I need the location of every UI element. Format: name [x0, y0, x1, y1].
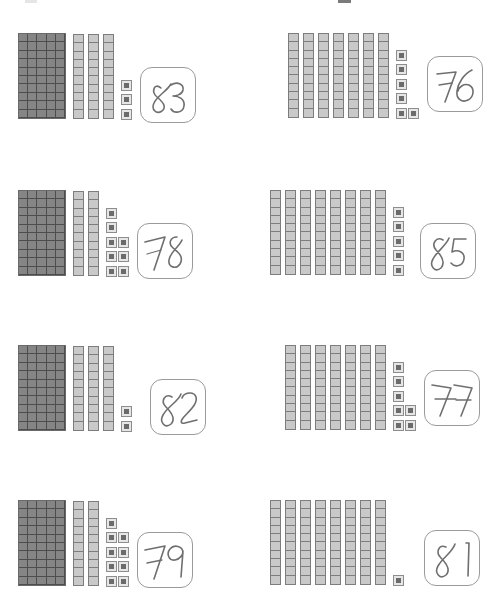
- rod-cell: [74, 93, 83, 101]
- rod-cell: [361, 257, 370, 265]
- flat-cell: [37, 509, 46, 517]
- flat-cell: [56, 76, 65, 84]
- flat-cell: [19, 380, 28, 388]
- rod-cell: [74, 267, 83, 275]
- rod-cell: [376, 518, 385, 526]
- rod-cell: [334, 92, 343, 100]
- ten-rod: [88, 34, 99, 119]
- answer-box[interactable]: 78: [137, 223, 193, 279]
- answer-box[interactable]: 79: [137, 532, 193, 588]
- flat-cell: [19, 346, 28, 354]
- rod-cell: [361, 576, 370, 584]
- rod-cell: [376, 199, 385, 207]
- rod-cell: [271, 216, 280, 224]
- ten-rods-group: [73, 34, 118, 119]
- flat-cell: [56, 250, 65, 258]
- flat-cell: [28, 258, 37, 266]
- flat-cell: [47, 422, 56, 430]
- rod-cell: [74, 347, 83, 355]
- rod-cell: [346, 346, 355, 354]
- unit-cubes-group: [122, 402, 134, 431]
- rod-cell: [316, 216, 325, 224]
- ten-rods-group: [285, 345, 390, 430]
- rod-cell: [89, 568, 98, 576]
- rod-cell: [346, 232, 355, 240]
- rod-cell: [74, 52, 83, 60]
- rod-cell: [316, 363, 325, 371]
- rod-cell: [89, 388, 98, 396]
- unit-cube-spacer: [406, 392, 415, 401]
- rod-cell: [89, 543, 98, 551]
- flat-cell: [47, 258, 56, 266]
- rod-cell: [304, 51, 313, 59]
- rod-cell: [104, 52, 113, 60]
- ten-rods-group: [73, 191, 103, 276]
- answer-box[interactable]: 85: [420, 223, 476, 279]
- unit-cube-column: [394, 357, 403, 430]
- unit-cube: [119, 562, 128, 571]
- flat-cell: [37, 42, 46, 50]
- answer-box[interactable]: 77: [424, 370, 480, 426]
- flat-cell: [19, 354, 28, 362]
- rod-cell: [346, 363, 355, 371]
- rod-cell: [331, 354, 340, 362]
- flat-cell: [56, 42, 65, 50]
- flat-cell: [47, 233, 56, 241]
- rod-cell: [361, 518, 370, 526]
- rod-cell: [331, 576, 340, 584]
- rod-cell: [104, 355, 113, 363]
- unit-cube-column: [119, 513, 128, 586]
- flat-cell: [28, 233, 37, 241]
- blocks-group: [288, 33, 421, 118]
- rod-cell: [361, 567, 370, 575]
- handwritten-answer-85: [421, 224, 475, 278]
- rod-cell: [89, 397, 98, 405]
- rod-cell: [349, 100, 358, 108]
- ten-rods-group: [73, 501, 103, 586]
- rod-cell: [316, 387, 325, 395]
- rod-cell: [286, 518, 295, 526]
- answer-box[interactable]: 83: [140, 67, 196, 123]
- flat-cell: [47, 371, 56, 379]
- ten-rod: [285, 190, 296, 275]
- flat-cell: [28, 543, 37, 551]
- unit-cube-spacer: [119, 519, 128, 528]
- rod-cell: [316, 354, 325, 362]
- rod-cell: [346, 421, 355, 429]
- flat-cell: [19, 68, 28, 76]
- rod-cell: [74, 76, 83, 84]
- rod-cell: [316, 534, 325, 542]
- answer-box[interactable]: 81: [424, 530, 480, 586]
- rod-cell: [331, 404, 340, 412]
- problem-p1: 83: [18, 33, 196, 119]
- rod-cell: [364, 67, 373, 75]
- flat-cell: [28, 551, 37, 559]
- flat-cell: [47, 396, 56, 404]
- rod-cell: [304, 84, 313, 92]
- ten-rod: [378, 33, 389, 118]
- flat-cell: [28, 34, 37, 42]
- ten-rod: [330, 190, 341, 275]
- rod-cell: [316, 346, 325, 354]
- rod-cell: [289, 92, 298, 100]
- flat-cell: [37, 51, 46, 59]
- flat-cell: [28, 560, 37, 568]
- rod-cell: [104, 413, 113, 421]
- flat-cell: [47, 518, 56, 526]
- rod-cell: [346, 199, 355, 207]
- rod-cell: [349, 59, 358, 67]
- rod-cell: [271, 266, 280, 274]
- answer-box[interactable]: 76: [427, 56, 483, 112]
- unit-cubes-group: [394, 202, 406, 275]
- rod-cell: [271, 509, 280, 517]
- rod-cell: [316, 371, 325, 379]
- flat-cell: [56, 526, 65, 534]
- flat-cell: [47, 551, 56, 559]
- rod-cell: [364, 34, 373, 42]
- rod-cell: [74, 577, 83, 585]
- unit-cube-spacer: [409, 94, 418, 103]
- rod-cell: [104, 110, 113, 118]
- ten-rod: [315, 500, 326, 585]
- answer-box[interactable]: 82: [150, 379, 206, 435]
